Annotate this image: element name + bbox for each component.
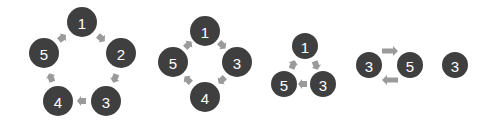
- block-arrow-left-icon: [382, 75, 398, 85]
- arrow-icon: [310, 60, 322, 72]
- arrow-icon: [181, 73, 194, 86]
- node-label: 4: [201, 90, 209, 107]
- group-single: 3: [442, 52, 468, 78]
- node-3: 3: [91, 86, 121, 116]
- node-label: 3: [319, 77, 327, 94]
- node-label: 5: [169, 55, 177, 72]
- node-5: 5: [271, 71, 297, 97]
- arrow-icon: [77, 96, 86, 106]
- node-3: 3: [310, 71, 336, 97]
- node-5: 5: [397, 52, 423, 78]
- group-cycle-4: 1345: [158, 16, 252, 112]
- arrow-icon: [215, 74, 228, 87]
- node-2: 2: [106, 38, 136, 68]
- node-label: 4: [54, 94, 62, 111]
- node-label: 1: [301, 39, 309, 56]
- node-label: 3: [365, 58, 373, 75]
- group-cycle-3: 135: [271, 33, 336, 97]
- node-label: 1: [201, 24, 209, 41]
- node-label: 5: [406, 58, 414, 75]
- arrow-icon: [95, 32, 108, 45]
- arrow-icon: [109, 73, 121, 85]
- arrow-icon: [298, 79, 307, 89]
- arrow-icon: [216, 39, 229, 52]
- arrow-icon: [45, 72, 57, 84]
- node-label: 2: [117, 46, 125, 63]
- node-3: 3: [442, 52, 468, 78]
- arrow-icon: [287, 59, 299, 71]
- node-5: 5: [158, 47, 188, 77]
- node-5: 5: [29, 38, 59, 68]
- node-3: 3: [222, 47, 252, 77]
- group-cycle-5: 12345: [29, 7, 136, 116]
- node-label: 3: [102, 94, 110, 111]
- node-1: 1: [190, 16, 220, 46]
- node-3: 3: [356, 52, 382, 78]
- node-4: 4: [190, 82, 220, 112]
- node-1: 1: [67, 7, 97, 37]
- cycle-diagram: 123451345135353: [0, 0, 489, 125]
- node-label: 3: [451, 58, 459, 75]
- node-label: 1: [78, 15, 86, 32]
- node-1: 1: [292, 33, 318, 59]
- node-4: 4: [43, 86, 73, 116]
- diagram-canvas: 123451345135353: [0, 0, 489, 125]
- node-label: 5: [280, 77, 288, 94]
- node-label: 3: [233, 55, 241, 72]
- node-label: 5: [40, 46, 48, 63]
- arrow-icon: [56, 31, 69, 44]
- block-arrow-right-icon: [382, 46, 398, 56]
- group-cycle-2: 35: [356, 46, 423, 85]
